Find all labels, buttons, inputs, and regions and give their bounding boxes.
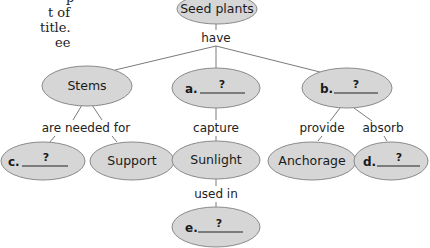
node-label: Stems [67, 78, 106, 93]
node-seed-plants: Seed plants [177, 0, 257, 24]
node-label: Anchorage [278, 153, 346, 168]
node-stems: Stems [42, 66, 132, 106]
question-mark: ? [43, 151, 49, 164]
node-anchorage: Anchorage [268, 142, 356, 180]
node-support: Support [90, 142, 174, 180]
concept-map: Seed plants have Stems a. ? b. ? are nee… [0, 0, 430, 248]
question-mark: ? [396, 151, 402, 164]
edges [50, 24, 387, 207]
edge-label-c [50, 136, 55, 142]
node-a-blank[interactable]: a. ? [172, 68, 260, 108]
edge-absorb-d [384, 136, 387, 141]
edge-label-support [112, 136, 117, 142]
node-letter: d. [363, 155, 376, 169]
question-mark: ? [219, 78, 225, 91]
node-letter: a. [185, 82, 198, 96]
link-label-have: have [201, 31, 230, 45]
question-mark: ? [353, 78, 359, 91]
edge-have-stems [115, 46, 216, 70]
edge-b-absorb [354, 108, 372, 121]
node-e-blank[interactable]: e. ? [172, 207, 260, 247]
node-sunlight: Sunlight [172, 141, 260, 179]
edge-have-b [216, 46, 320, 72]
link-label-provide: provide [299, 121, 344, 135]
link-label-absorb: absorb [362, 121, 403, 135]
node-letter: e. [185, 221, 198, 235]
node-letter: c. [8, 155, 20, 169]
node-label: Support [107, 153, 157, 168]
link-label-are-needed-for: are needed for [42, 121, 131, 135]
node-d-blank[interactable]: d. ? [354, 142, 428, 180]
edge-provide-anchorage [318, 136, 322, 141]
node-label: Sunlight [190, 152, 242, 167]
edge-b-provide [330, 108, 340, 121]
node-b-blank[interactable]: b. ? [302, 68, 392, 108]
edge-stems-label2 [92, 105, 102, 120]
edge-stems-label [73, 105, 82, 120]
node-c-blank[interactable]: c. ? [1, 142, 85, 180]
question-mark: ? [216, 217, 222, 230]
node-letter: b. [320, 82, 333, 96]
link-label-used-in: used in [194, 187, 238, 201]
link-label-capture: capture [193, 121, 239, 135]
node-label: Seed plants [180, 1, 254, 16]
